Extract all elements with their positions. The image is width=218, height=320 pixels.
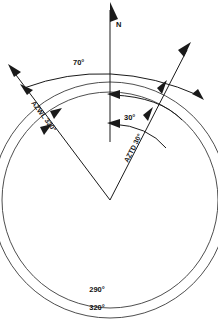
arc-mid-left-arrow-icon (107, 90, 120, 99)
north-arrow-icon (110, 2, 118, 22)
outer-circle-label: 320° (89, 303, 105, 312)
aztd-ray-label: AZTD 30° (123, 132, 143, 163)
azimuth-diagram: N 70° 30° AZWL 320° AZTD 30° 290° 320° (0, 0, 218, 320)
outer-circle (0, 82, 218, 318)
azimuth-diagram-canvas: N 70° 30° AZWL 320° AZTD 30° 290° 320° (0, 0, 218, 320)
north-label: N (116, 20, 121, 29)
inner-circle-label: 290° (89, 285, 105, 294)
azwl-arrowhead-icon (8, 64, 21, 77)
aztd-arrowhead-icon (178, 42, 191, 57)
arc-30-left-arrow-icon (107, 119, 120, 128)
angle-30-label: 30° (124, 113, 135, 122)
arc-70-right-arrow-icon (192, 89, 204, 100)
azwl-outer-crossing-arrow-icon (50, 108, 62, 119)
angle-70-label: 70° (73, 58, 84, 67)
